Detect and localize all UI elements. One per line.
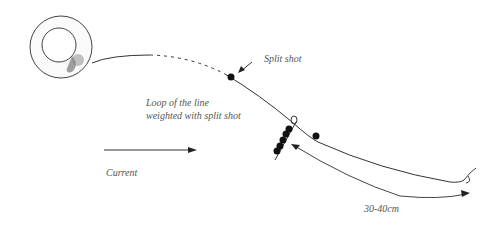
- diagram-drawing: [0, 0, 490, 226]
- split-shot-lower: [313, 133, 320, 140]
- fishing-rig-diagram: Split shot Loop of the line weighted wit…: [0, 0, 490, 226]
- length-label: 30-40cm: [364, 203, 399, 215]
- reel-icon: [30, 16, 92, 78]
- loop-label-line2: weighted with split shot: [146, 110, 241, 122]
- current-label: Current: [106, 167, 137, 179]
- hook-icon: [464, 168, 476, 183]
- split-shot-cluster: [274, 126, 293, 155]
- fishing-line-main: [225, 74, 464, 182]
- length-arrow: [293, 145, 466, 198]
- split-shot: [228, 74, 235, 81]
- split-shot-label: Split shot: [264, 53, 302, 65]
- fishing-line: [92, 55, 150, 63]
- loop-label-line1: Loop of the line: [146, 97, 209, 109]
- fishing-line-dashed: [150, 55, 225, 74]
